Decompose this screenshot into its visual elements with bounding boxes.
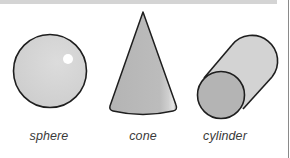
cylinder-label: cylinder	[190, 129, 260, 143]
sphere-shape	[14, 35, 87, 108]
cone-label: cone	[108, 129, 178, 143]
cone-shape	[110, 12, 177, 115]
cone-body	[110, 12, 177, 115]
cylinder-shape	[198, 35, 278, 118]
sphere-highlight	[63, 54, 73, 64]
cylinder-front-face	[198, 72, 245, 119]
sphere-body	[14, 35, 87, 108]
sphere-label: sphere	[14, 129, 84, 143]
